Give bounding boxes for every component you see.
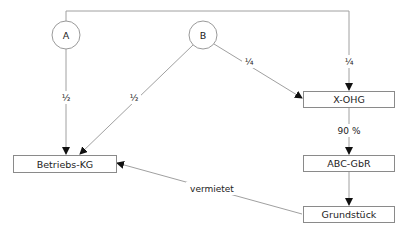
- edge-label-a-to-betriebs-kg: ½: [62, 93, 71, 103]
- node-a-label: A: [63, 30, 70, 41]
- edge-label-a-to-x-ohg: ¼: [345, 57, 354, 67]
- ownership-diagram: ½ ½ ¼ ¼ 90 % vermietet A B Betriebs-KG X…: [0, 0, 406, 233]
- node-grundstueck-label: Grundstück: [322, 209, 377, 220]
- node-a: A: [52, 21, 80, 49]
- diagram-svg: ½ ½ ¼ ¼ 90 % vermietet A B Betriebs-KG X…: [0, 0, 406, 233]
- node-x-ohg: X-OHG: [304, 92, 395, 108]
- edge-label-b-to-betriebs-kg: ½: [130, 93, 139, 103]
- node-abc-gbr-label: ABC-GbR: [327, 158, 371, 169]
- node-x-ohg-label: X-OHG: [333, 94, 365, 105]
- node-b: B: [189, 21, 217, 49]
- edge-label-b-to-x-ohg: ¼: [245, 57, 254, 67]
- node-b-label: B: [200, 30, 207, 41]
- node-abc-gbr: ABC-GbR: [304, 156, 395, 172]
- edge-label-x-ohg-to-abc-gbr: 90 %: [338, 126, 361, 136]
- node-betriebs-kg-label: Betriebs-KG: [37, 159, 93, 170]
- node-grundstueck: Grundstück: [304, 207, 395, 223]
- edge-label-vermietet: vermietet: [190, 184, 234, 194]
- node-betriebs-kg: Betriebs-KG: [14, 156, 117, 173]
- edge-b-to-x-ohg: [214, 44, 302, 98]
